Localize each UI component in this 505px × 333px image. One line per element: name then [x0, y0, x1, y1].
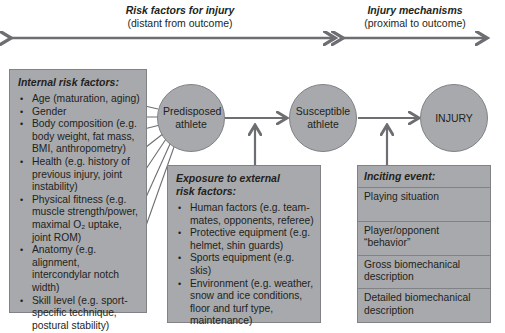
- list-item: Gender: [18, 106, 140, 119]
- inciting-item: Detailed biomechanical description: [358, 288, 490, 322]
- inciting-event-box: Inciting event: Playing situation Player…: [357, 165, 491, 323]
- list-item: Skill level (e.g. sport-specific techniq…: [18, 295, 140, 333]
- list-item: Age (maturation, aging): [18, 93, 140, 106]
- inciting-item: Player/opponent “behavior”: [358, 221, 490, 255]
- inciting-item: Gross biomechanical description: [358, 255, 490, 289]
- internal-risk-factors-box: Internal risk factors: Age (maturation, …: [9, 69, 147, 313]
- list-item: Anatomy (e.g. alignment, intercondylar n…: [18, 244, 140, 294]
- list-item: Human factors (e.g. team-mates, opponent…: [176, 202, 314, 227]
- predisposed-athlete-label: Predisposed athlete: [163, 105, 219, 131]
- list-item: Health (e.g. history of previous injury,…: [18, 156, 140, 194]
- susceptible-athlete-node: Susceptible athlete: [289, 84, 357, 152]
- list-item: Physical fitness (e.g. muscle strength/p…: [18, 194, 140, 244]
- list-item: Environment (e.g. weather, snow and ice …: [176, 278, 314, 328]
- inciting-item: Playing situation: [358, 187, 490, 221]
- list-item: Protective equipment (e.g. helmet, shin …: [176, 227, 314, 252]
- injury-label: INJURY: [435, 112, 473, 125]
- predisposed-athlete-node: Predisposed athlete: [157, 84, 225, 152]
- internal-risk-factors-title: Internal risk factors:: [18, 76, 140, 89]
- list-item: Sports equipment (e.g. skis): [176, 252, 314, 277]
- external-risk-factors-title: Exposure to external risk factors:: [176, 172, 296, 198]
- susceptible-athlete-label: Susceptible athlete: [295, 105, 351, 131]
- external-risk-factors-list: Human factors (e.g. team-mates, opponent…: [176, 202, 314, 328]
- external-risk-factors-box: Exposure to external risk factors: Human…: [167, 165, 321, 323]
- internal-risk-factors-list: Age (maturation, aging) Gender Body comp…: [18, 93, 140, 332]
- injury-node: INJURY: [420, 84, 488, 152]
- inciting-event-title: Inciting event:: [358, 166, 490, 187]
- list-item: Body composition (e.g. body weight, fat …: [18, 118, 140, 156]
